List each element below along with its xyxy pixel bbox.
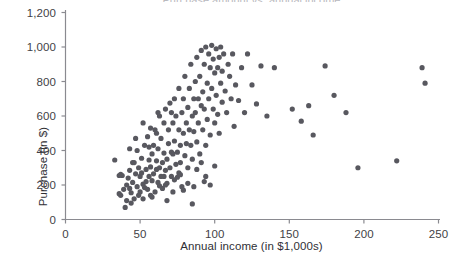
- scatter-point: [226, 62, 231, 67]
- scatter-point: [130, 180, 135, 185]
- scatter-point: [124, 198, 129, 203]
- scatter-point: [135, 184, 140, 189]
- y-tick-label: 400: [0, 145, 56, 157]
- scatter-point: [158, 136, 163, 141]
- scatter-point: [203, 44, 208, 49]
- x-tick-label: 50: [134, 228, 147, 240]
- scatter-point: [205, 117, 210, 122]
- scatter-point: [172, 138, 177, 143]
- plot-area: [0, 0, 461, 264]
- scatter-point: [203, 143, 208, 148]
- scatter-point: [214, 46, 219, 51]
- scatter-point: [220, 100, 225, 105]
- scatter-point: [176, 127, 181, 132]
- scatter-point: [185, 105, 190, 110]
- y-tick-label: 0: [0, 214, 56, 226]
- scatter-point: [154, 131, 159, 136]
- scatter-point: [176, 86, 181, 91]
- scatter-point: [175, 150, 180, 155]
- scatter-point: [129, 190, 134, 195]
- scatter-chart: Purchase amount vs. annual income Purcha…: [0, 0, 461, 264]
- scatter-point: [194, 167, 199, 172]
- scatter-point: [173, 162, 178, 167]
- scatter-point: [211, 56, 216, 61]
- axis-lines: [65, 10, 440, 220]
- scatter-point: [249, 82, 254, 87]
- scatter-point: [172, 177, 177, 182]
- scatter-point: [154, 158, 159, 163]
- scatter-point: [129, 201, 134, 206]
- scatter-point: [190, 157, 195, 162]
- scatter-point: [142, 143, 147, 148]
- scatter-point: [208, 182, 213, 187]
- scatter-point: [163, 168, 168, 173]
- scatter-point: [161, 150, 166, 155]
- scatter-point: [166, 127, 171, 132]
- scatter-point: [136, 193, 141, 198]
- scatter-point: [212, 70, 217, 75]
- scatter-point: [184, 120, 189, 125]
- scatter-point: [191, 96, 196, 101]
- scatter-point: [185, 165, 190, 170]
- y-tick-label: 800: [0, 76, 56, 88]
- scatter-point: [185, 181, 190, 186]
- scatter-point: [127, 168, 132, 173]
- scatter-point: [211, 107, 216, 112]
- scatter-point: [164, 157, 169, 162]
- scatter-point: [184, 141, 189, 146]
- scatter-point: [199, 160, 204, 165]
- scatter-point: [323, 63, 328, 68]
- y-tick-label: 1,000: [0, 41, 56, 53]
- scatter-point: [160, 160, 165, 165]
- scatter-point: [181, 188, 186, 193]
- scatter-point: [203, 174, 208, 179]
- scatter-point: [224, 110, 229, 115]
- scatter-point: [181, 131, 186, 136]
- scatter-point: [121, 187, 126, 192]
- scatter-point: [170, 151, 175, 156]
- scatter-point: [206, 51, 211, 56]
- scatter-point: [182, 74, 187, 79]
- y-tick-label: 200: [0, 179, 56, 191]
- scatter-point: [242, 110, 247, 115]
- scatter-point: [140, 120, 145, 125]
- scatter-point: [227, 74, 232, 79]
- scatter-point: [221, 51, 226, 56]
- scatter-point: [178, 160, 183, 165]
- x-tick-label: 150: [280, 228, 300, 240]
- scatter-point: [212, 163, 217, 168]
- scatter-point: [155, 146, 160, 151]
- scatter-point: [232, 124, 237, 129]
- scatter-point: [161, 120, 166, 125]
- scatter-point: [170, 189, 175, 194]
- scatter-point: [202, 179, 207, 184]
- scatter-point: [157, 183, 162, 188]
- scatter-point: [149, 178, 154, 183]
- scatter-point: [143, 179, 148, 184]
- scatter-point: [208, 132, 213, 137]
- scatter-point: [157, 165, 162, 170]
- scatter-point: [163, 182, 168, 187]
- x-tick-label: 250: [429, 228, 449, 240]
- scatter-point: [191, 184, 196, 189]
- scatter-point: [127, 146, 132, 151]
- scatter-point: [209, 86, 214, 91]
- scatter-point: [118, 193, 123, 198]
- scatter-point: [196, 96, 201, 101]
- scatter-point: [205, 81, 210, 86]
- scatter-point: [214, 93, 219, 98]
- x-tick-label: 200: [354, 228, 374, 240]
- scatter-point: [355, 165, 360, 170]
- scatter-point: [290, 107, 295, 112]
- scatter-point: [394, 158, 399, 163]
- scatter-point: [188, 62, 193, 67]
- scatter-point: [181, 96, 186, 101]
- scatter-point: [236, 98, 241, 103]
- scatter-point: [169, 110, 174, 115]
- scatter-point: [194, 139, 199, 144]
- scatter-point: [272, 65, 277, 70]
- scatter-point: [187, 86, 192, 91]
- scatter-point: [173, 113, 178, 118]
- scatter-point: [139, 170, 144, 175]
- scatter-point: [215, 65, 220, 70]
